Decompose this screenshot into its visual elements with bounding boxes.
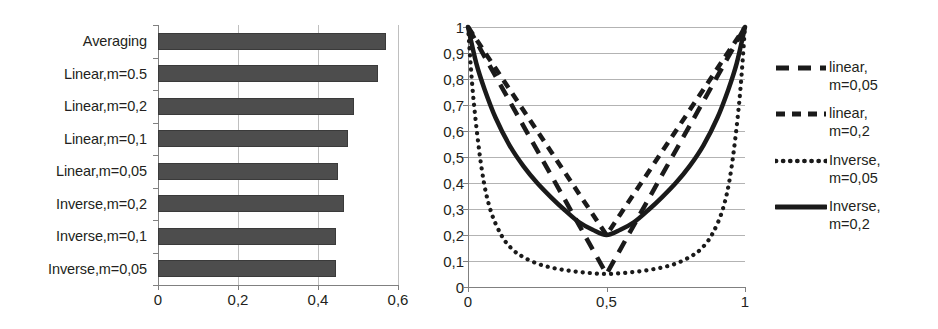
bar-series	[158, 25, 398, 285]
line-x-tick	[607, 287, 608, 292]
legend-item[interactable]: Inverse, m=0,05	[775, 151, 935, 187]
line-y-tick-label: 0,4	[443, 176, 464, 191]
bar-x-tick	[158, 285, 159, 290]
bar-rect	[158, 260, 336, 277]
bar-row	[158, 253, 398, 286]
legend-item[interactable]: linear, m=0,05	[775, 58, 935, 94]
line-y-tick-label: 0,1	[443, 254, 464, 269]
bar-category-label: Inverse,m=0,2	[8, 188, 153, 221]
bar-plot-area	[158, 25, 398, 285]
bar-category-label: Averaging	[8, 25, 153, 58]
bar-rect	[158, 195, 344, 212]
bar-category-label: Linear,m=0,1	[8, 123, 153, 156]
bar-gridline	[398, 25, 399, 285]
line-y-tick-label: 0,5	[443, 150, 464, 165]
line-y-tick-label: 0,9	[443, 46, 464, 61]
bar-x-ticks	[158, 285, 398, 291]
line-y-axis-labels: 00,10,20,30,40,50,60,70,80,91	[420, 20, 464, 294]
bar-x-tick-label: 0,2	[228, 292, 249, 307]
figure-two-panel-chart: Averaging Linear,m=0.5 Linear,m=0,2 Line…	[0, 0, 938, 329]
legend-label: linear, m=0,05	[829, 58, 878, 94]
bar-rect	[158, 65, 378, 82]
bar-rect	[158, 98, 354, 115]
bar-category-label: Linear,m=0,05	[8, 155, 153, 188]
line-y-tick-label: 0,7	[443, 98, 464, 113]
bar-x-tick-label: 0,4	[308, 292, 329, 307]
bar-row	[158, 220, 398, 253]
bar-row	[158, 25, 398, 58]
chart-legend: linear, m=0,05linear, m=0,2Inverse, m=0,…	[775, 58, 935, 243]
legend-label: Inverse, m=0,2	[829, 197, 881, 233]
bar-row	[158, 155, 398, 188]
bar-row	[158, 58, 398, 91]
bar-rect	[158, 163, 338, 180]
bar-x-tick	[318, 285, 319, 290]
bar-category-label: Linear,m=0.5	[8, 58, 153, 91]
line-y-tick-label: 0,3	[443, 202, 464, 217]
line-y-tick-label: 0,8	[443, 72, 464, 87]
legend-label: linear, m=0,2	[829, 104, 870, 140]
bar-category-label: Inverse,m=0,1	[8, 220, 153, 253]
line-x-tick	[745, 287, 746, 292]
bar-chart-panel: Averaging Linear,m=0.5 Linear,m=0,2 Line…	[0, 0, 420, 329]
bar-row	[158, 123, 398, 156]
bar-category-label: Inverse,m=0,05	[8, 253, 153, 286]
bar-category-label: Linear,m=0,2	[8, 90, 153, 123]
legend-item[interactable]: Inverse, m=0,2	[775, 197, 935, 233]
line-x-axis-labels: 00,51	[468, 294, 745, 318]
bar-x-tick	[238, 285, 239, 290]
bar-rect	[158, 228, 336, 245]
line-y-tick-label: 0,6	[443, 124, 464, 139]
bar-rect	[158, 130, 348, 147]
bar-x-tick	[398, 285, 399, 290]
bar-x-axis-labels: 00,20,40,6	[158, 292, 398, 316]
line-x-tick-label: 0,5	[596, 294, 617, 309]
legend-label: Inverse, m=0,05	[829, 151, 881, 187]
bar-rect	[158, 33, 386, 50]
line-x-tick-label: 1	[741, 294, 749, 309]
bar-category-axis: Averaging Linear,m=0.5 Linear,m=0,2 Line…	[8, 25, 153, 285]
line-series-path	[468, 27, 745, 235]
legend-swatch-dotted-icon	[775, 154, 827, 168]
line-series-group	[468, 27, 745, 287]
legend-swatch-dashed-short-icon	[775, 107, 827, 121]
legend-swatch-solid-icon	[775, 200, 827, 214]
bar-row	[158, 188, 398, 221]
bar-x-tick-label: 0,6	[388, 292, 409, 307]
line-x-tick-label: 0	[464, 294, 472, 309]
bar-x-tick-label: 0	[154, 292, 162, 307]
line-y-tick-label: 0,2	[443, 228, 464, 243]
line-plot-area	[468, 27, 745, 287]
line-x-tick	[468, 287, 469, 292]
line-series-path	[468, 27, 745, 235]
legend-item[interactable]: linear, m=0,2	[775, 104, 935, 140]
legend-swatch-dashed-long-icon	[775, 61, 827, 75]
line-chart-panel: 00,10,20,30,40,50,60,70,80,91 00,51 line…	[420, 0, 938, 329]
bar-row	[158, 90, 398, 123]
